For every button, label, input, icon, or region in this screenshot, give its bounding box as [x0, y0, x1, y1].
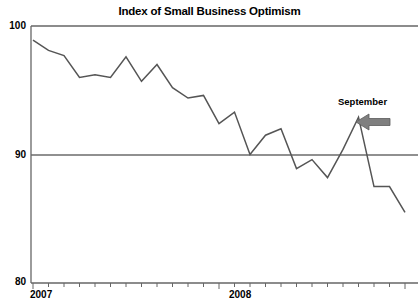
x-axis-minor-ticks — [33, 283, 405, 289]
chart-container: Index of Small Business Optimism 100 90 … — [0, 0, 419, 308]
plot-area — [0, 0, 419, 308]
data-series-line — [33, 40, 405, 212]
